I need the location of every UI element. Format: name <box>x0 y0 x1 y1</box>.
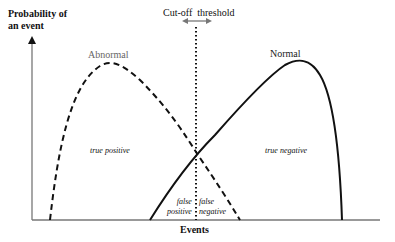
threshold-label-right: threshold <box>197 7 234 18</box>
false-negative-line2: negative <box>199 207 226 217</box>
false-positive-line1: false <box>167 197 192 207</box>
true-negative-label: true negative <box>265 146 307 155</box>
abnormal-label: Abnormal <box>88 49 129 60</box>
diagram-canvas <box>0 0 395 242</box>
false-positive-line2: positive <box>167 207 192 217</box>
true-positive-label: true positive <box>90 146 130 155</box>
false-positive-label: false positive <box>167 197 192 217</box>
y-axis-arrow-icon <box>28 36 36 44</box>
y-axis-label-line2: an event <box>8 20 67 32</box>
x-axis-label: Events <box>180 224 209 235</box>
normal-label: Normal <box>270 48 301 59</box>
threshold-label-left: Cut-off <box>163 7 192 18</box>
threshold-label: Cut-off threshold <box>163 7 234 18</box>
false-negative-line1: false <box>199 197 226 207</box>
y-axis-label: Probability of an event <box>8 8 67 32</box>
false-negative-label: false negative <box>199 197 226 217</box>
y-axis-label-line1: Probability of <box>8 8 67 20</box>
arrow-left-icon <box>182 18 188 24</box>
arrow-right-icon <box>206 18 212 24</box>
